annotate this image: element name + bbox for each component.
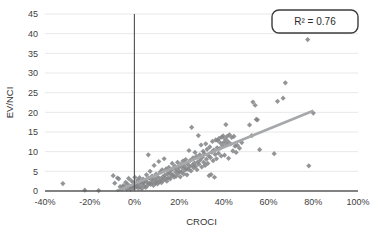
data-point [146, 152, 151, 157]
data-point [189, 125, 194, 130]
x-axis-title: CROCI [186, 216, 217, 227]
r-squared-legend: R² = 0.76 [272, 10, 358, 33]
data-point [306, 163, 311, 168]
x-tick-label: -20% [79, 197, 100, 207]
data-point [198, 142, 203, 147]
data-point [223, 122, 228, 127]
data-point [82, 188, 87, 193]
scatter-chart: -40%-20%0%20%40%60%80%100% 0510152025303… [0, 0, 372, 245]
chart-canvas: -40%-20%0%20%40%60%80%100% 0510152025303… [0, 0, 372, 245]
plot-points [60, 37, 316, 193]
x-tick-label: 40% [215, 197, 233, 207]
y-tick-label: 0 [33, 186, 38, 196]
data-point [112, 181, 117, 186]
y-tick-label: 5 [33, 167, 38, 177]
y-tick-label: 35 [28, 49, 38, 59]
y-axis-title: EV/NCI [4, 87, 15, 119]
y-tick-label: 15 [28, 127, 38, 137]
data-point [247, 122, 252, 127]
data-point [147, 169, 152, 174]
data-point [203, 141, 208, 146]
y-tick-label: 25 [28, 88, 38, 98]
data-point [275, 99, 280, 104]
y-tick-label: 45 [28, 9, 38, 19]
r-squared-label: R² = 0.76 [294, 16, 336, 27]
data-point [111, 173, 116, 178]
data-point [60, 181, 65, 186]
x-tick-label: 20% [170, 197, 188, 207]
data-point [152, 163, 157, 168]
data-point [226, 156, 231, 161]
gridlines [45, 14, 358, 171]
x-axis-title-text: CROCI [186, 216, 217, 227]
x-tick-label: 0% [128, 197, 141, 207]
data-point [283, 80, 288, 85]
x-tick-label: -40% [34, 197, 55, 207]
data-point [156, 159, 161, 164]
data-point [281, 96, 286, 101]
data-point [196, 133, 201, 138]
x-tick-labels: -40%-20%0%20%40%60%80%100% [34, 197, 369, 207]
x-tick-label: 80% [304, 197, 322, 207]
data-point [162, 156, 167, 161]
data-point [186, 148, 191, 153]
y-tick-label: 10 [28, 147, 38, 157]
y-axis-title-text: EV/NCI [4, 87, 15, 119]
x-tick-label: 60% [260, 197, 278, 207]
data-point [305, 37, 310, 42]
y-tick-label: 30 [28, 68, 38, 78]
y-tick-label: 40 [28, 29, 38, 39]
y-tick-labels: 051015202530354045 [28, 9, 38, 196]
y-tick-label: 20 [28, 108, 38, 118]
x-tick-label: 100% [346, 197, 369, 207]
